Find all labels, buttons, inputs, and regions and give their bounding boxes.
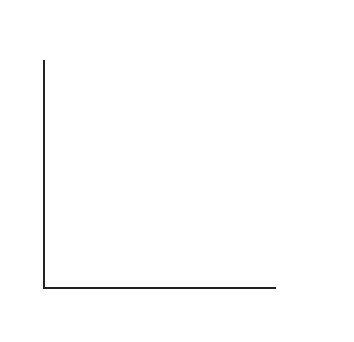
y-axis xyxy=(43,60,45,289)
x-axis xyxy=(43,287,276,289)
